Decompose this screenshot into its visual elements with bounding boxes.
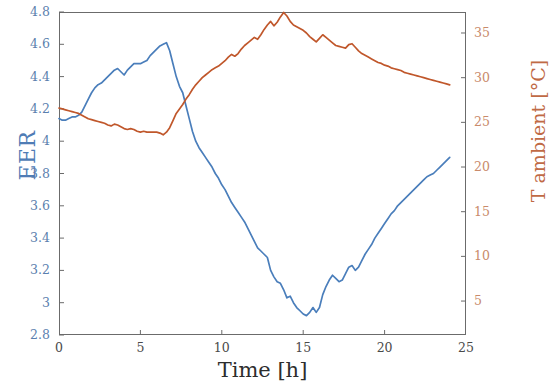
y-tick-label: 3.8 bbox=[0, 167, 50, 180]
x-tick-label: 20 bbox=[377, 342, 393, 355]
y-tick-label: 4.6 bbox=[0, 38, 50, 51]
x-tick-label: 10 bbox=[214, 342, 230, 355]
y2-tick-label: 10 bbox=[474, 250, 490, 263]
y2-tick-label: 25 bbox=[474, 116, 490, 129]
y-tick-label: 2.8 bbox=[0, 329, 50, 342]
y-tick-label: 4 bbox=[0, 135, 50, 148]
x-tick-label: 15 bbox=[295, 342, 311, 355]
y2-tick-label: 30 bbox=[474, 71, 490, 84]
y2-tick-label: 15 bbox=[474, 205, 490, 218]
x-tick-label: 5 bbox=[136, 342, 144, 355]
y-tick-label: 3.6 bbox=[0, 200, 50, 213]
y-tick-label: 4.2 bbox=[0, 103, 50, 116]
y-axis-title: EER bbox=[15, 111, 40, 201]
x-axis-title: Time [h] bbox=[59, 358, 466, 382]
y2-tick-label: 20 bbox=[474, 161, 490, 174]
y-tick-label: 3.2 bbox=[0, 264, 50, 277]
y-tick-label: 4.8 bbox=[0, 6, 50, 19]
y2-tick-label: 35 bbox=[474, 27, 490, 40]
y-tick-label: 3.4 bbox=[0, 232, 50, 245]
x-tick-label: 0 bbox=[55, 342, 63, 355]
series-line-eer bbox=[59, 43, 450, 316]
series-line-t-ambient bbox=[59, 12, 450, 134]
y2-axis-title: T ambient [°C] bbox=[527, 41, 549, 221]
y-tick-label: 4.4 bbox=[0, 70, 50, 83]
y-tick-label: 3 bbox=[0, 296, 50, 309]
x-tick-label: 25 bbox=[458, 342, 474, 355]
y2-tick-label: 5 bbox=[474, 295, 482, 308]
